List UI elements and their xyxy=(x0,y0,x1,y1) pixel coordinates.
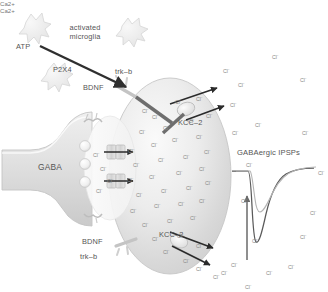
chloride-ion-extracellular: Cl- xyxy=(300,232,306,240)
chloride-ion-extracellular: Cl- xyxy=(238,80,244,88)
chloride-ion-extracellular: Cl- xyxy=(310,208,316,216)
trkb-bottom-label: trk–b xyxy=(80,253,97,262)
chloride-ion-intracellular: Cl- xyxy=(151,140,157,148)
chloride-ion-intracellular: Cl- xyxy=(196,241,202,249)
chloride-ion-intracellular: Cl- xyxy=(175,97,181,105)
microglia-cell-atp xyxy=(19,13,51,44)
atp-label: ATP xyxy=(16,43,30,52)
chloride-ion-extracellular: Cl- xyxy=(223,66,229,74)
figure-canvas: ATP activated microglia P2X4 trk–b BDNF … xyxy=(0,0,328,292)
chloride-ion-intracellular: Cl- xyxy=(152,234,158,242)
synaptic-vesicle xyxy=(80,177,91,188)
gaba-label: GABA xyxy=(38,163,62,173)
chloride-ion-intracellular: Cl- xyxy=(154,201,160,209)
chloride-ion-extracellular: Cl- xyxy=(245,282,251,290)
activated-microglia-label: activated microglia xyxy=(58,24,112,41)
chloride-ion-intracellular: Cl- xyxy=(199,196,205,204)
chloride-ion-intracellular: Cl- xyxy=(158,155,164,163)
chloride-ion-extracellular: Cl- xyxy=(300,75,306,83)
chloride-ion-extracellular: Cl- xyxy=(255,120,261,128)
chloride-ion-extracellular: Cl- xyxy=(221,268,227,276)
chloride-ion-intracellular: Cl- xyxy=(172,135,178,143)
chloride-ion-intracellular: Cl- xyxy=(206,111,212,119)
ipsp-trace-group xyxy=(232,167,316,260)
bdnf-bottom-label: BDNF xyxy=(82,238,103,247)
chloride-ion-extracellular: Cl- xyxy=(196,264,202,272)
chloride-ion-intracellular: Cl- xyxy=(128,146,134,154)
ipsp-trace-light xyxy=(236,167,316,212)
synaptic-vesicle xyxy=(80,141,91,152)
chloride-ion-extracellular: Cl- xyxy=(231,260,237,268)
chloride-ion-extracellular: Cl- xyxy=(100,164,106,172)
synaptic-cleft xyxy=(84,116,136,220)
chloride-ion-intracellular: Cl- xyxy=(183,152,189,160)
trkb-top-label: trk–b xyxy=(115,68,132,77)
chloride-ion-intracellular: Cl- xyxy=(196,94,202,102)
chloride-ion-extracellular: Cl- xyxy=(252,236,258,244)
p2x4-label: P2X4 xyxy=(53,66,72,75)
chloride-ion-intracellular: Cl- xyxy=(163,123,169,131)
chloride-ion-intracellular: Cl- xyxy=(152,112,158,120)
chloride-ion-intracellular: Cl- xyxy=(190,213,196,221)
chloride-ion-intracellular: Cl- xyxy=(136,190,142,198)
chloride-ion-extracellular: Cl- xyxy=(241,196,247,204)
chloride-ion-intracellular: Cl- xyxy=(161,186,167,194)
chloride-ion-extracellular: Cl- xyxy=(266,268,272,276)
chloride-ion-intracellular: Cl- xyxy=(204,147,210,155)
chloride-ion-intracellular: Cl- xyxy=(205,178,211,186)
activated-microglia-line2: microglia xyxy=(70,32,101,41)
chloride-ion-extracellular: Cl- xyxy=(288,262,294,270)
chloride-ion-extracellular: Cl- xyxy=(272,52,278,60)
chloride-ion-intracellular: Cl- xyxy=(133,160,139,168)
chloride-ion-extracellular: Cl- xyxy=(93,150,99,158)
chloride-ion-extracellular: Cl- xyxy=(213,272,219,280)
microglia-cell-right xyxy=(116,18,148,47)
chloride-ion-extracellular: Cl- xyxy=(246,160,252,168)
chloride-ion-intracellular: Cl- xyxy=(127,175,133,183)
chloride-ion-extracellular: Cl- xyxy=(107,176,113,184)
chloride-ion-intracellular: Cl- xyxy=(188,116,194,124)
chloride-ion-extracellular: Cl- xyxy=(302,128,308,136)
chloride-ion-intracellular: Cl- xyxy=(177,231,183,239)
chloride-ion-intracellular: Cl- xyxy=(196,132,202,140)
chloride-ion-intracellular: Cl- xyxy=(130,206,136,214)
chloride-ion-extracellular: Cl- xyxy=(230,100,236,108)
chloride-ion-intracellular: Cl- xyxy=(167,216,173,224)
chloride-ion-intracellular: Cl- xyxy=(139,127,145,135)
chloride-ion-intracellular: Cl- xyxy=(183,256,189,264)
ipsp-title-label: GABAergic IPSPs xyxy=(237,149,300,158)
chloride-ion-intracellular: Cl- xyxy=(186,183,192,191)
synaptic-vesicle xyxy=(80,159,91,170)
chloride-ion-intracellular: Cl- xyxy=(142,106,148,114)
chloride-ion-intracellular: Cl- xyxy=(178,199,184,207)
chloride-ion-intracellular: Cl- xyxy=(199,164,205,172)
chloride-ion-extracellular: Cl- xyxy=(318,168,324,176)
chloride-ion-intracellular: Cl- xyxy=(149,172,155,180)
bdnf-top-label: BDNF xyxy=(83,84,104,93)
chloride-ion-intracellular: Cl- xyxy=(176,168,182,176)
chloride-ion-extracellular: Cl- xyxy=(96,186,102,194)
chloride-ion-intracellular: Cl- xyxy=(142,220,148,228)
chloride-ion-extracellular: Cl- xyxy=(232,128,238,136)
chloride-ion-intracellular: Cl- xyxy=(163,247,169,255)
